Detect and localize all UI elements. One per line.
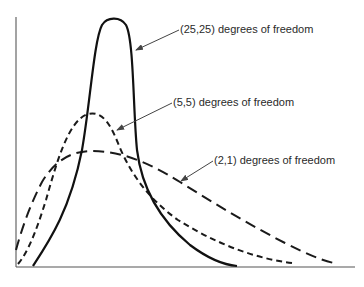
chart-canvas (0, 0, 364, 287)
label-25-25-dof: (25,25) degrees of freedom (180, 24, 313, 35)
curve-2-1-dof (16, 151, 334, 263)
arrow-5-5 (117, 103, 172, 130)
label-2-1-dof: (2,1) degrees of freedom (214, 155, 335, 166)
arrow-2-1 (181, 161, 213, 181)
f-distribution-chart: (25,25) degrees of freedom (5,5) degrees… (0, 0, 364, 287)
label-5-5-dof: (5,5) degrees of freedom (173, 97, 294, 108)
arrow-25-25 (136, 30, 179, 50)
curve-5-5-dof (18, 113, 292, 264)
curve-25-25-dof (33, 19, 237, 266)
